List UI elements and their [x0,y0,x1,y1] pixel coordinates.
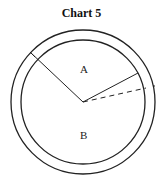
dashed-line [83,88,146,102]
slice-boundary-left [30,52,83,102]
slice-label-b: B [80,129,87,141]
slice-label-a: A [80,63,88,75]
pie-chart: A B [0,0,163,187]
slice-boundary-right [83,73,138,102]
ring-tick-left [30,52,35,57]
